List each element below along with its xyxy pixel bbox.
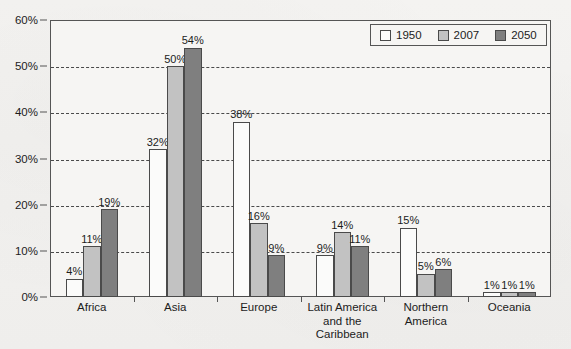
gridline: [51, 252, 550, 253]
light-gray-swatch-icon: [438, 30, 449, 41]
chart-screenshot: 0%10%20%30%40%50%60% 4%11%19%32%50%54%38…: [0, 0, 571, 349]
x-axis-category-line: America: [403, 315, 448, 329]
y-axis-tick-label: 10%: [15, 245, 38, 257]
legend-item-2007[interactable]: 2007: [438, 29, 480, 41]
gridline: [51, 113, 550, 114]
x-axis-category-label: Asia: [164, 301, 186, 315]
y-axis-tick-mark: [40, 158, 47, 159]
legend-item-label: 2050: [511, 29, 537, 41]
y-axis-tick-mark: [40, 204, 47, 205]
x-axis-category-label: Europe: [240, 301, 277, 315]
legend-item-label: 2007: [454, 29, 480, 41]
y-axis-tick-mark: [40, 112, 47, 113]
chart-legend: 195020072050: [370, 24, 547, 46]
y-axis-tick-label: 50%: [15, 60, 38, 72]
gridline: [51, 160, 550, 161]
x-axis-categories: AfricaAsiaEuropeLatin Americaand theCari…: [50, 301, 551, 349]
x-axis-category-line: and the: [307, 315, 377, 329]
legend-item-1950[interactable]: 1950: [380, 29, 422, 41]
x-axis-category-label: Oceania: [488, 301, 531, 315]
y-axis-tick-mark: [40, 20, 47, 21]
white-swatch-icon: [380, 30, 391, 41]
legend-item-2050[interactable]: 2050: [495, 29, 537, 41]
x-axis-category-label: Latin Americaand theCaribbean: [307, 301, 377, 342]
y-axis-tick-label: 30%: [15, 153, 38, 165]
y-axis-tick-mark: [40, 250, 47, 251]
legend-item-label: 1950: [396, 29, 422, 41]
dark-gray-swatch-icon: [495, 30, 506, 41]
x-axis-category-label: Africa: [77, 301, 106, 315]
y-axis: 0%10%20%30%40%50%60%: [0, 0, 50, 349]
x-axis-category-line: Caribbean: [307, 328, 377, 342]
y-axis-tick-label: 40%: [15, 106, 38, 118]
y-axis-tick-mark: [40, 297, 47, 298]
y-axis-tick-label: 0%: [21, 291, 38, 303]
y-axis-tick-label: 20%: [15, 199, 38, 211]
plot-area: [50, 20, 551, 297]
x-axis-category-line: Europe: [240, 301, 277, 315]
x-axis-category-line: Latin America: [307, 301, 377, 315]
gridline: [51, 206, 550, 207]
x-axis-category-line: Asia: [164, 301, 186, 315]
y-axis-tick-label: 60%: [15, 14, 38, 26]
x-axis-category-line: Oceania: [488, 301, 531, 315]
x-axis-category-line: Africa: [77, 301, 106, 315]
y-axis-tick-mark: [40, 66, 47, 67]
x-axis-category-line: Northern: [403, 301, 448, 315]
gridline: [51, 67, 550, 68]
x-axis-category-label: NorthernAmerica: [403, 301, 448, 328]
